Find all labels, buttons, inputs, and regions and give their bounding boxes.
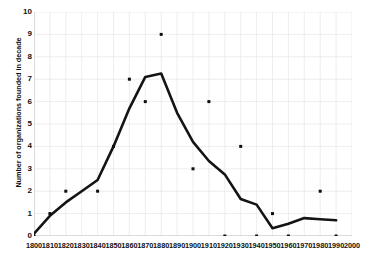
data-point-marker [96,190,99,193]
data-point-marker [335,235,338,237]
data-point-markers [34,33,338,236]
data-point-marker [34,235,36,237]
data-point-marker [160,33,163,36]
trend-line [34,74,336,234]
plot-area [34,12,352,236]
data-point-marker [223,235,226,237]
data-point-marker [207,100,210,103]
x-axis-tick-label: 2000 [339,242,365,250]
data-point-marker [112,145,115,148]
data-point-marker [144,100,147,103]
data-point-marker [128,78,131,81]
data-point-marker [255,235,258,237]
data-point-marker [192,167,195,170]
data-point-marker [48,212,51,215]
data-point-marker [239,145,242,148]
data-point-marker [64,190,67,193]
gridlines [34,12,352,236]
data-point-marker [287,235,290,237]
data-point-marker [271,212,274,215]
data-point-marker [319,190,322,193]
line-chart: Number of organizations founded in decad… [0,0,377,258]
plot-svg [34,12,352,236]
